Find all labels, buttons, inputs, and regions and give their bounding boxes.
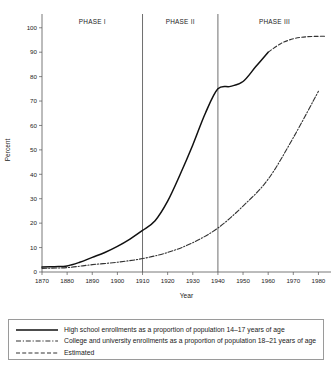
- x-tick-label: 1920: [161, 277, 175, 284]
- data-series-line: [268, 36, 326, 52]
- chart-canvas: PHASE IPHASE IIPHASE III 010203040506070…: [0, 0, 336, 318]
- enrollment-chart-figure: PHASE IPHASE IIPHASE III 010203040506070…: [0, 0, 336, 366]
- phase-label: PHASE III: [259, 18, 290, 25]
- list-item: High school enrollments as a proportion …: [15, 324, 317, 336]
- dash-dot-line-swatch: [15, 336, 59, 346]
- y-axis-title: Percent: [4, 138, 11, 161]
- y-tick-label: 10: [30, 244, 37, 251]
- x-tick-label: 1870: [35, 277, 49, 284]
- y-tick-label: 100: [27, 24, 38, 31]
- legend-label-college: College and university enrollments as a …: [64, 336, 316, 346]
- x-tick-label: 1940: [211, 277, 225, 284]
- x-tick-label: 1880: [60, 277, 74, 284]
- x-tick-label: 1910: [136, 277, 150, 284]
- y-tick-label: 60: [30, 122, 37, 129]
- y-tick-label: 80: [30, 73, 37, 80]
- y-tick-label: 90: [30, 48, 37, 55]
- dashed-line-swatch: [15, 348, 59, 358]
- y-tick-label: 0: [34, 268, 38, 275]
- x-tick-label: 1960: [261, 277, 275, 284]
- solid-line-swatch: [15, 325, 59, 335]
- phase-label-group: PHASE IPHASE IIPHASE III: [79, 18, 290, 25]
- x-tick-label: 1950: [236, 277, 250, 284]
- x-tick-group: 1870188018901900191019201930194019501960…: [35, 272, 326, 284]
- x-tick-label: 1980: [312, 277, 326, 284]
- y-tick-label: 70: [30, 97, 37, 104]
- phase-label: PHASE I: [79, 18, 106, 25]
- list-item: College and university enrollments as a …: [15, 336, 317, 348]
- x-tick-label: 1890: [85, 277, 99, 284]
- x-tick-label: 1900: [111, 277, 125, 284]
- legend-label-high-school: High school enrollments as a proportion …: [64, 325, 285, 335]
- y-tick-label: 30: [30, 195, 37, 202]
- legend-label-estimated: Estimated: [64, 348, 94, 358]
- data-series-line: [42, 52, 268, 267]
- y-tick-label: 20: [30, 219, 37, 226]
- series-group: [42, 36, 326, 268]
- y-tick-group: 0102030405060708090100: [27, 24, 42, 275]
- y-tick-label: 50: [30, 146, 37, 153]
- x-tick-label: 1970: [286, 277, 300, 284]
- x-tick-label: 1930: [186, 277, 200, 284]
- x-axis-title: Year: [180, 292, 194, 299]
- chart-legend: High school enrollments as a proportion …: [8, 319, 324, 360]
- phase-label: PHASE II: [166, 18, 195, 25]
- phase-divider-group: [143, 14, 218, 272]
- data-series-line: [42, 91, 318, 268]
- list-item: Estimated: [15, 347, 317, 359]
- y-tick-label: 40: [30, 171, 37, 178]
